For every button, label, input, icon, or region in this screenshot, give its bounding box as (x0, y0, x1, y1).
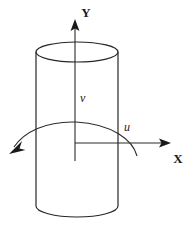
y-axis-label: Y (81, 5, 91, 20)
x-axis-label: X (173, 151, 183, 166)
cylinder-top-ellipse (36, 42, 118, 62)
cylinder-bottom-arc (36, 206, 118, 217)
velocity-v-label: v (80, 91, 86, 105)
coordinate-axes (71, 19, 172, 161)
cylinder-shape (36, 42, 118, 217)
figure-canvas: Y X v u (0, 0, 194, 238)
velocity-u-label: u (124, 120, 130, 134)
cylinder-coordinate-diagram: Y X v u (0, 0, 194, 238)
